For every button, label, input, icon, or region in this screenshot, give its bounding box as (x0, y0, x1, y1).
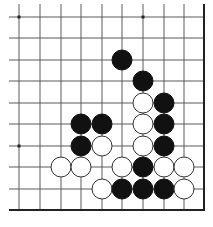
black-stone (112, 179, 132, 199)
grid-lines (9, 4, 204, 210)
white-stone (174, 179, 194, 199)
white-stone (51, 157, 71, 177)
star-point (18, 16, 21, 19)
go-board (0, 0, 213, 227)
white-stone (71, 157, 91, 177)
white-stone (133, 93, 153, 113)
black-stone (112, 50, 132, 70)
star-point (18, 145, 21, 148)
black-stone (154, 114, 174, 134)
black-stone (154, 136, 174, 156)
white-stone (133, 114, 153, 134)
white-stone (133, 136, 153, 156)
white-stone (92, 136, 112, 156)
white-stone (112, 157, 132, 177)
black-stone (71, 114, 91, 134)
black-stone (71, 136, 91, 156)
black-stone (133, 157, 153, 177)
white-stone (174, 157, 194, 177)
black-stone (133, 71, 153, 91)
black-stone (154, 93, 174, 113)
black-stone (133, 179, 153, 199)
black-stone (154, 179, 174, 199)
white-stone (92, 179, 112, 199)
black-stone (92, 114, 112, 134)
star-point (142, 16, 145, 19)
white-stone (154, 157, 174, 177)
